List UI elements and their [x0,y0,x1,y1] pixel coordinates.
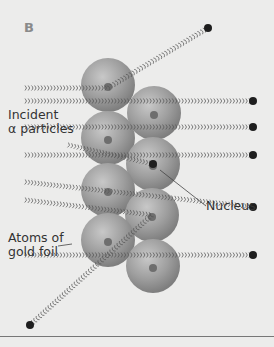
incident-label-line1: Incident [8,108,58,122]
gold-foil-diagram: B Incident α particles Nucleus Atoms of … [0,0,274,347]
alpha-particle [249,251,257,259]
incident-label-line2: α particles [8,122,74,136]
bottom-divider [0,336,274,337]
alpha-particle [149,160,157,168]
scattering-illustration [0,0,274,347]
nucleus-dot [104,238,112,246]
alpha-particle [204,24,212,32]
panel-label: B [24,20,34,35]
nucleus-label: Nucleus [206,199,256,213]
alpha-particle [26,321,34,329]
nucleus-dot [104,136,112,144]
nucleus-dot [149,264,157,272]
atoms-label-line1: Atoms of [8,231,64,245]
alpha-particle [249,97,257,105]
atoms-label-line2: gold foil [8,245,58,259]
alpha-particle [249,123,257,131]
alpha-particle [249,151,257,159]
nucleus-dot [150,111,158,119]
